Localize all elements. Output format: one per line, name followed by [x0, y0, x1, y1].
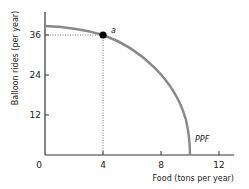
x-axis-label: Food (tons per year): [153, 174, 234, 183]
y-tick-label: 24: [30, 70, 42, 80]
point-a-label: a: [111, 26, 116, 35]
y-axis-label: Balloon rides (per year): [11, 11, 20, 105]
point-a: [99, 31, 106, 38]
x-tick-label: 0: [36, 160, 42, 170]
ppf-curve: [45, 26, 190, 155]
y-tick-label: 36: [30, 30, 42, 40]
y-tick-label: 12: [30, 110, 41, 120]
x-tick-label: 8: [158, 160, 164, 170]
x-tick-label: 12: [213, 160, 224, 170]
ppf-label: PPF: [195, 135, 210, 144]
ppf-chart: 12 24 36 0 4 8 12 Food (tons per year) B…: [0, 0, 249, 189]
x-tick-label: 4: [100, 160, 106, 170]
